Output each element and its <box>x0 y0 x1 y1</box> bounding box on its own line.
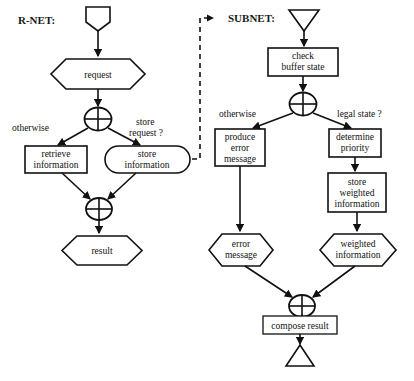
subnet-start-triangle <box>289 10 319 31</box>
subnet-title: SUBNET: <box>228 12 275 24</box>
xor-merge-subnet <box>289 295 315 317</box>
edge-retrieve-to-merge <box>62 173 90 199</box>
node-produce-error-message-line2: error <box>231 143 250 153</box>
edge-xor-to-produce-error <box>253 113 293 128</box>
r-net-title: R-NET: <box>18 14 55 26</box>
node-check-buffer-state-line2: buffer state <box>282 62 325 72</box>
r-net-start-pentagon <box>86 7 110 31</box>
xor-merge-left <box>86 198 112 220</box>
node-produce-error-message-line3: message <box>224 154 256 164</box>
node-store-information-line2: information <box>125 160 170 170</box>
subnet-refinement-link <box>192 18 213 159</box>
node-retrieve-information-line2: information <box>34 160 79 170</box>
node-compose-result-label: compose result <box>271 321 329 331</box>
xor-split-subnet <box>290 93 317 116</box>
node-request-label: request <box>84 70 112 80</box>
node-determine-priority-line2: priority <box>341 143 370 153</box>
xor-split-left <box>85 108 112 131</box>
edge-xor-to-retrieve <box>58 128 88 145</box>
node-store-weighted-information-line2: weighted <box>340 188 375 198</box>
node-error-message-line1: error <box>232 239 251 249</box>
edge-error-message-to-merge <box>245 266 292 297</box>
subnet-end-triangle <box>286 345 314 366</box>
edge-store-to-merge <box>108 173 136 199</box>
node-check-buffer-state-line1: check <box>292 51 314 61</box>
flowchart-svg: R-NET: request otherwise store request ?… <box>0 0 414 381</box>
node-weighted-information-line2: information <box>336 250 381 260</box>
node-store-information-line1: store <box>138 149 156 159</box>
node-error-message-line2: message <box>225 250 257 260</box>
node-store-weighted-information-line1: store <box>348 177 366 187</box>
edge-label-store-request-line1: store <box>136 117 154 127</box>
node-weighted-information-line1: weighted <box>341 239 376 249</box>
node-determine-priority-line1: determine <box>336 132 374 142</box>
node-result-label: result <box>91 246 112 256</box>
edge-label-store-request-line2: request ? <box>129 128 163 138</box>
node-retrieve-information-line1: retrieve <box>41 149 70 159</box>
node-store-weighted-information-line3: information <box>335 199 380 209</box>
diagram-canvas: R-NET: request otherwise store request ?… <box>0 0 414 381</box>
edge-label-legal-state: legal state ? <box>337 109 382 119</box>
edge-label-otherwise-left: otherwise <box>12 123 49 133</box>
edge-weighted-info-to-merge <box>313 266 355 297</box>
node-produce-error-message-line1: produce <box>225 132 256 142</box>
edge-label-otherwise-right: otherwise <box>219 109 256 119</box>
